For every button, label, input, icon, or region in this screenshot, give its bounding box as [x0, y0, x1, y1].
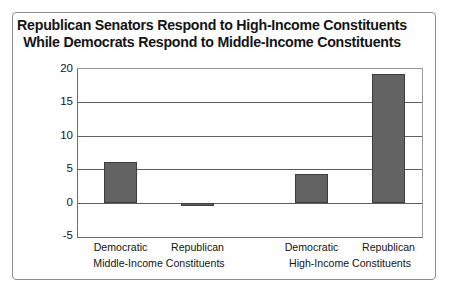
y-tick-label-20: 20	[60, 63, 73, 75]
bar	[295, 174, 328, 203]
x-tick-label: Democratic	[285, 241, 339, 253]
gridline-15	[78, 102, 422, 103]
x-tick-label: Republican	[171, 241, 224, 253]
bar	[181, 203, 214, 206]
bar	[372, 74, 405, 202]
gridline-10	[78, 136, 422, 137]
chart-title: Republican Senators Respond to High-Inco…	[14, 17, 410, 51]
x-axis-labels: DemocraticRepublicanDemocraticRepublican…	[77, 241, 423, 281]
bar	[104, 162, 137, 203]
chart-title-line-1: Republican Senators Respond to High-Inco…	[14, 17, 410, 34]
figure: Republican Senators Respond to High-Inco…	[0, 0, 450, 298]
x-tick-label: Republican	[362, 241, 415, 253]
y-tick-label-15: 15	[60, 97, 73, 109]
y-tick-label-5: 5	[67, 163, 73, 175]
plot-area: -505101520	[77, 68, 423, 238]
x-group-label: Middle-Income Constituents	[93, 257, 224, 269]
x-group-label: High-Income Constituents	[289, 257, 411, 269]
y-tick-label-10: 10	[60, 130, 73, 142]
y-tick-label-0: 0	[67, 197, 73, 209]
plot-inner: -505101520	[78, 69, 422, 237]
gridline-0	[78, 203, 422, 204]
y-tick-label--5: -5	[63, 230, 73, 242]
chart-title-line-2: While Democrats Respond to Middle-Income…	[14, 34, 410, 51]
x-tick-label: Democratic	[94, 241, 148, 253]
